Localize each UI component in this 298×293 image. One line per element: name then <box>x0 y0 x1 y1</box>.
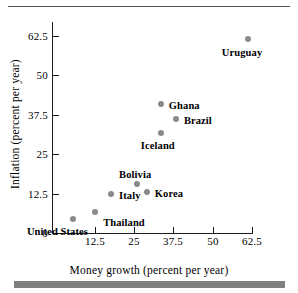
x-tick <box>213 227 214 233</box>
data-point-label: Korea <box>155 188 183 199</box>
data-point-label: Thailand <box>103 217 145 228</box>
data-point-marker <box>108 191 114 197</box>
x-axis-title: Money growth (percent per year) <box>0 264 298 276</box>
x-tick <box>173 227 174 233</box>
data-point-label: Ghana <box>169 100 200 111</box>
y-tick-label: 62.5 <box>0 31 48 42</box>
y-tick <box>53 75 59 76</box>
data-point-marker <box>173 116 179 122</box>
y-tick-label: 50 <box>0 70 48 81</box>
data-point-marker <box>245 36 251 42</box>
y-tick <box>53 36 59 37</box>
bottom-gray-bar <box>14 281 285 288</box>
x-tick-label: 62.5 <box>230 236 274 247</box>
data-point-marker <box>70 216 76 222</box>
data-point-marker <box>158 130 164 136</box>
y-tick-label: 25 <box>0 149 48 160</box>
y-tick <box>53 115 59 116</box>
x-tick-label: 25 <box>112 236 156 247</box>
data-point-label: Iceland <box>141 140 175 151</box>
y-tick-label: 12.5 <box>0 189 48 200</box>
y-tick <box>53 154 59 155</box>
y-axis-line <box>52 22 53 234</box>
data-point-label: Italy <box>119 190 141 201</box>
data-point-marker <box>158 101 164 107</box>
data-point-marker <box>144 189 150 195</box>
data-point-label: Bolivia <box>119 169 151 180</box>
y-tick <box>53 194 59 195</box>
scatter-plot: 012.52537.55062.5 12.52537.55062.5 Unite… <box>0 0 298 293</box>
x-tick-label: 37.5 <box>151 236 195 247</box>
data-point-marker <box>92 209 98 215</box>
x-tick <box>252 227 253 233</box>
x-tick-label: 12.5 <box>73 236 117 247</box>
y-axis-title: Inflation (percent per year) <box>9 19 21 229</box>
data-point-marker <box>134 181 140 187</box>
x-tick-label: 50 <box>191 236 235 247</box>
x-tick <box>95 227 96 233</box>
data-point-label: Uruguay <box>222 47 262 58</box>
y-tick-label: 37.5 <box>0 110 48 121</box>
figure-container: 012.52537.55062.5 12.52537.55062.5 Unite… <box>0 0 298 293</box>
data-point-label: Brazil <box>184 115 212 126</box>
data-point-label: United States <box>27 226 88 237</box>
